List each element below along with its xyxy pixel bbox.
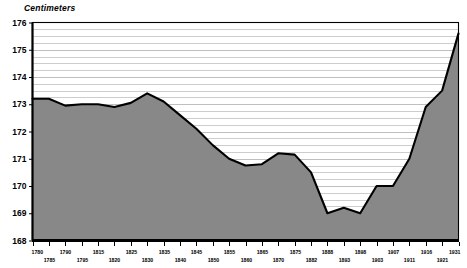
area-fill xyxy=(33,33,459,240)
x-tick-label: 1850 xyxy=(208,257,220,263)
y-tick-label: 175 xyxy=(12,45,26,55)
x-tick-label: 1830 xyxy=(142,257,154,263)
chart-container: Centimeters 1681691701711721731741751761… xyxy=(0,0,467,268)
x-tick-label: 1898 xyxy=(355,249,367,255)
y-tick-label: 174 xyxy=(12,72,26,82)
x-tick-label: 1860 xyxy=(241,257,253,263)
x-tick-label: 1780 xyxy=(32,249,44,255)
y-tick-label: 172 xyxy=(12,127,26,137)
x-tick-label: 1888 xyxy=(322,249,334,255)
x-tick-label: 1911 xyxy=(404,257,415,263)
x-axis-ticks: 1780178517901795181518201825183018351840… xyxy=(32,242,461,263)
x-tick-label: 1785 xyxy=(44,257,56,263)
x-tick-label: 1893 xyxy=(339,257,351,263)
x-tick-label: 1825 xyxy=(126,249,138,255)
x-tick-label: 1865 xyxy=(257,249,269,255)
x-tick-label: 1931 xyxy=(449,249,461,255)
y-axis-ticks: 168169170171172173174175176 xyxy=(12,18,32,246)
area-chart-plot: 1681691701711721731741751761780178517901… xyxy=(0,0,467,268)
y-tick-label: 168 xyxy=(12,236,26,246)
x-tick-label: 1907 xyxy=(388,249,400,255)
x-tick-label: 1820 xyxy=(109,257,121,263)
y-tick-label: 169 xyxy=(12,208,26,218)
y-tick-label: 176 xyxy=(12,18,26,28)
x-tick-label: 1845 xyxy=(191,249,203,255)
x-tick-label: 1815 xyxy=(93,249,105,255)
y-tick-label: 170 xyxy=(12,181,26,191)
x-tick-label: 1870 xyxy=(273,257,285,263)
x-tick-label: 1840 xyxy=(175,257,187,263)
x-tick-label: 1795 xyxy=(77,257,89,263)
x-tick-label: 1875 xyxy=(290,249,302,255)
x-tick-label: 1916 xyxy=(421,249,433,255)
x-tick-label: 1921 xyxy=(437,257,449,263)
x-tick-label: 1790 xyxy=(60,249,72,255)
x-tick-label: 1855 xyxy=(224,249,236,255)
x-tick-label: 1835 xyxy=(159,249,171,255)
y-tick-label: 173 xyxy=(12,99,26,109)
x-tick-label: 1882 xyxy=(306,257,318,263)
y-tick-label: 171 xyxy=(12,154,26,164)
x-tick-label: 1903 xyxy=(372,257,384,263)
